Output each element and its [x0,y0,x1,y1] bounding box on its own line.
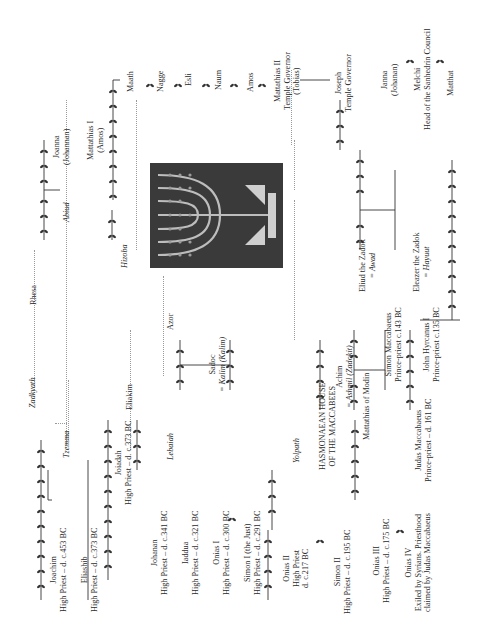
person-note: Exiled by Syrians. Priesthood [414,513,424,612]
person-janna: Janna (Johanan) [380,64,399,96]
person-simon-maccabaeus: Simon Maccabaeus Prince-priest c.143 BC [384,307,403,382]
person-title: Temple Governor [283,52,293,110]
person-title: High Priest – d. c.373 BC [124,421,134,505]
person-name: Onias I [212,511,222,595]
person-matthat: Matthat [446,71,456,96]
person-title: High Priest – d. c.300 BC [222,511,232,595]
person-title: Head of the Sanhedrin Council [423,29,433,130]
person-eleazer-the-zadok: Eleazer the Zadok = Hayuut [412,232,431,292]
person-name: Achim [335,345,345,408]
person-name: Onias II [282,549,292,588]
person-title: Temple Governor [344,54,354,112]
person-alt-name: (Amos) [96,121,106,160]
person-name: Melchi [413,29,423,130]
person-lebaiah: Lebaiah [166,433,176,460]
person-mattathias-of-modin: Mattathias of Modin [362,373,372,440]
menorah-image [150,163,283,268]
person-note: claimed by Judas Maccabaeus [423,513,433,612]
person-azor: Azor [166,314,176,330]
person-title: Prince-priest – d. 161 BC [424,399,434,482]
person-onias-4: Onias IV Exiled by Syrians. Priesthood c… [404,513,433,612]
person-name: Simon II [333,530,343,614]
person-mattathias-2: Mattathias II Temple Governor (Tobias) [273,52,302,110]
person-title: High Priest [292,549,302,588]
person-name: Judas Maccabaeus [414,399,424,482]
person-name: Simon Maccabaeus [384,307,394,382]
person-name: Joachim [49,528,59,612]
person-name: Mattathias II [273,52,283,110]
person-joseph: Joseph Temple Governor [334,54,353,112]
genealogy-page: Joachim High Priest – d. c.453 BC Eliash… [0,0,492,642]
person-title: High Priest – d. c.373 BC [90,528,100,612]
person-amos: Amos [246,72,256,92]
person-title: High Priest – d. c.341 BC [160,511,170,595]
person-date: d. c.217 BC [301,549,311,588]
person-title: High Priest – d. c.175 BC [382,519,392,603]
person-name: Simon I (the Just) [243,511,253,595]
person-name: John Hyrcanus I [422,307,432,382]
person-name: Joiadah [114,421,124,505]
person-title: Prince-priest c.143 BC [394,307,404,382]
menorah-icon [150,163,283,268]
person-yolpath: Yolpath [292,438,302,463]
person-onias-1: Onias I High Priest – d. c.300 BC [212,511,231,595]
person-nagge: Nagge [156,71,166,92]
person-john-hyrcanus: John Hyrcanus I Prince-priest c.135 BC [422,307,441,382]
person-joachim: Joachim High Priest – d. c.453 BC [49,528,68,612]
person-spouse: = Ashmil (Zadokit) [345,345,355,408]
person-name: Eliashib [80,528,90,612]
person-iaddua: Iaddua High Priest – d. c.321 BC [181,511,200,595]
person-tzemma: Tzemma [62,431,72,458]
person-eliud-the-zadok: Eliud the Zadok = Awad [358,239,377,292]
person-joiadah: Joiadah High Priest – d. c.373 BC [114,421,133,505]
person-spouse: = Awad [368,239,378,292]
person-title: High Priest – d. c.195 BC [343,530,353,614]
person-name: Janna [380,64,390,96]
person-title: High Priest – d. c.321 BC [191,511,201,595]
person-name: Johanan [150,511,160,595]
person-achim: Achim = Ashmil (Zadokit) [335,345,354,408]
person-title: High Priest – d. c.291 BC [253,511,263,595]
person-alt-name: (Johanan) [390,64,400,96]
person-esli: Esli [184,73,194,86]
person-onias-3: Onias III High Priest – d. c.175 BC [372,519,391,603]
person-maath: Maath [126,71,136,92]
person-simon-2: Simon II High Priest – d. c.195 BC [333,530,352,614]
person-sadoc: Sadoc = Kalim (Kalim) [208,337,227,392]
person-abiud: Abiud [62,202,72,222]
person-onias-2: Onias II High Priest d. c.217 BC [282,549,311,588]
person-title: Prince-priest c.135 BC [432,307,442,382]
person-name: Joseph [334,54,344,112]
person-mattathias-1: Mattathias I (Amos) [86,121,105,160]
person-spouse: = Hayuut [422,232,432,292]
person-naum: Naum [214,70,224,90]
person-name: Eliud the Zadok [358,239,368,292]
person-name: Joanna [52,129,62,165]
person-rhesa: Rhesa [29,285,39,305]
person-melchi: Melchi Head of the Sanhedrin Council [413,29,432,130]
person-simon-1: Simon I (the Just) High Priest – d. c.29… [243,511,262,595]
person-alt-name: (Johannan) [62,129,72,165]
person-name: Eleazer the Zadok [412,232,422,292]
person-name: Sadoc [208,337,218,392]
person-judas-maccabaeus: Judas Maccabaeus Prince-priest – d. 161 … [414,399,433,482]
person-alt-name: (Tobias) [292,52,302,110]
person-joanna: Joanna (Johannan) [52,129,71,165]
person-hizoba: Hizoba [120,244,130,268]
person-name: Iaddua [181,511,191,595]
person-name: Onias IV [404,513,414,612]
person-spouse: = Kalim (Kalim) [218,337,228,392]
person-eliakim: Eliakim [125,384,135,410]
person-zadkyath: Zadkyath [28,378,38,408]
person-johanan: Johanan High Priest – d. c.341 BC [150,511,169,595]
person-title: High Priest – d. c.453 BC [59,528,69,612]
person-name: Onias III [372,519,382,603]
person-eliashib: Eliashib High Priest – d. c.373 BC [80,528,99,612]
person-name: Mattathias I [86,121,96,160]
